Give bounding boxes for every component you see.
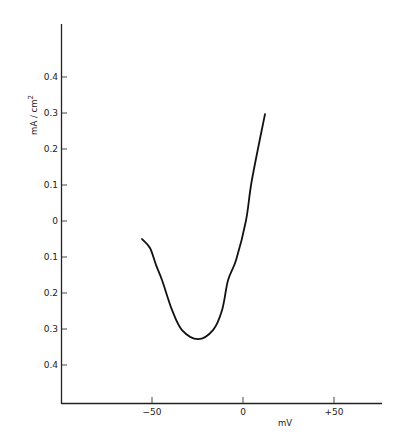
y-tick-label: 0.2 (44, 288, 58, 298)
x-axis-label: mV (278, 418, 292, 428)
y-ticks: 0.40.30.20.100.10.20.30.4 (44, 72, 67, 370)
iv-curve-chart: 0.40.30.20.100.10.20.30.4 −500+50 mV mA … (0, 0, 401, 448)
x-tick-label: +50 (325, 407, 344, 417)
y-axis-label: mA / cm2 (27, 95, 39, 135)
y-tick-label: 0.4 (44, 72, 59, 82)
y-tick-label: 0.3 (44, 324, 58, 334)
data-curve (142, 114, 265, 339)
x-tick-label: 0 (240, 407, 246, 417)
x-ticks: −500+50 (143, 397, 344, 417)
y-tick-label: 0.2 (44, 144, 58, 154)
y-tick-label: 0.1 (44, 180, 58, 190)
axes (62, 24, 383, 404)
y-tick-label: 0.4 (44, 360, 59, 370)
y-tick-label: 0.3 (44, 108, 58, 118)
x-tick-label: −50 (143, 407, 162, 417)
y-tick-label: 0 (52, 216, 58, 226)
y-tick-label: 0.1 (44, 252, 58, 262)
